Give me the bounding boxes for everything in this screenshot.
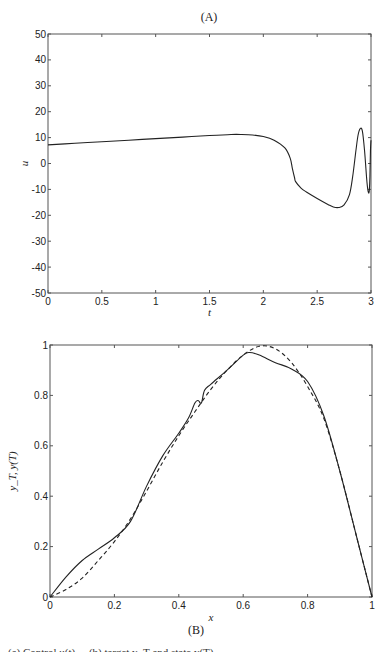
y-tick-label: 0.6 bbox=[34, 440, 48, 451]
y-tick-label: 50 bbox=[35, 29, 47, 40]
x-tick-label: 2 bbox=[261, 296, 267, 307]
y-tick-label: 30 bbox=[35, 80, 47, 91]
x-tick-label: 0 bbox=[47, 600, 53, 611]
plot-frame bbox=[50, 345, 372, 597]
x-axis-label: t bbox=[208, 306, 212, 318]
x-tick-label: 0.8 bbox=[301, 600, 315, 611]
y-tick-label: 20 bbox=[35, 106, 47, 117]
y-tick-label: 0 bbox=[40, 158, 46, 169]
x-tick-label: 0.6 bbox=[236, 600, 250, 611]
x-tick-label: 3 bbox=[368, 296, 374, 307]
y-tick-label: 0.8 bbox=[34, 390, 48, 401]
y-tick-label: 40 bbox=[35, 54, 47, 65]
chart-a: 00.511.522.53-50-40-30-20-1001020304050t… bbox=[0, 0, 391, 320]
y-tick-label: -40 bbox=[32, 262, 47, 273]
y-tick-label: -30 bbox=[32, 236, 47, 247]
y-tick-label: 0.2 bbox=[34, 541, 48, 552]
x-tick-label: 0.4 bbox=[172, 600, 186, 611]
x-tick-label: 2.5 bbox=[310, 296, 324, 307]
figure: (A) 00.511.522.53-50-40-30-20-1001020304… bbox=[0, 0, 391, 652]
y-tick-label: 10 bbox=[35, 132, 47, 143]
y-tick-label: -20 bbox=[32, 210, 47, 221]
x-tick-label: 1 bbox=[153, 296, 159, 307]
y-tick-label: -50 bbox=[32, 288, 47, 299]
y-axis-label: u bbox=[18, 160, 30, 166]
panel-b-title: (B) bbox=[188, 623, 204, 638]
plot-frame bbox=[48, 34, 371, 293]
figure-caption: (a) Control u(t) ... (b) target y_T and … bbox=[8, 645, 388, 652]
x-tick-label: 1 bbox=[369, 600, 375, 611]
x-axis-label: x bbox=[208, 611, 214, 623]
y-tick-label: 0 bbox=[42, 592, 48, 603]
series-line-u-t- bbox=[48, 128, 371, 208]
chart-b: 00.20.40.60.8100.20.40.60.81xy_T, y(T) bbox=[0, 320, 391, 650]
x-tick-label: 0 bbox=[45, 296, 51, 307]
x-tick-label: 0.2 bbox=[107, 600, 121, 611]
x-tick-label: 0.5 bbox=[95, 296, 109, 307]
y-tick-label: -10 bbox=[32, 184, 47, 195]
y-axis-label: y_T, y(T) bbox=[6, 451, 19, 492]
y-tick-label: 1 bbox=[42, 340, 48, 351]
y-tick-label: 0.4 bbox=[34, 491, 48, 502]
